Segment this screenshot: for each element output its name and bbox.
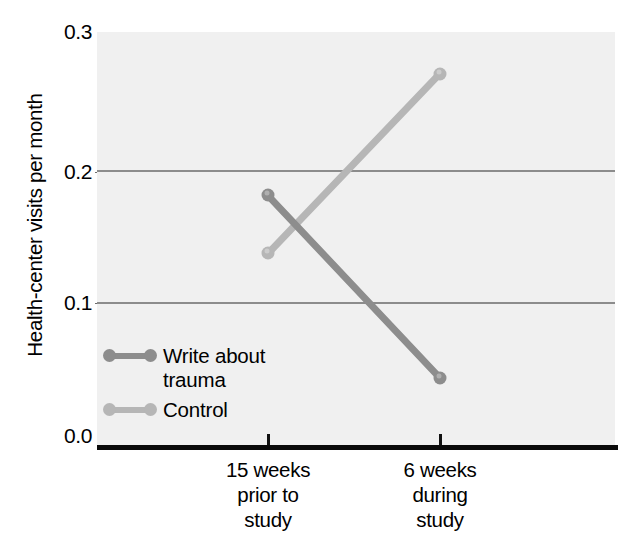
- legend-dot-right-control: [144, 403, 157, 416]
- legend: Write about trauma Control: [103, 344, 363, 428]
- legend-dot-left-write-about-trauma: [103, 349, 116, 362]
- y-tick-label-0.1: 0.1: [40, 292, 92, 313]
- gridline-0.2: [97, 170, 615, 172]
- x-tick-label-6-weeks-during: 6 weeks during study: [345, 457, 535, 532]
- data-point-control-6-weeks-during: [434, 68, 447, 81]
- y-tick-label-0.0: 0.0: [40, 425, 92, 446]
- legend-dot-right-write-about-trauma: [144, 349, 157, 362]
- y-tick-label-0.3: 0.3: [40, 21, 92, 42]
- data-point-write-about-trauma-6-weeks-during: [434, 372, 447, 385]
- legend-label-control: Control: [163, 398, 228, 422]
- legend-label-write-about-trauma: Write about trauma: [163, 344, 265, 392]
- legend-item-write-about-trauma: Write about trauma: [103, 344, 363, 392]
- legend-swatch-control: [103, 400, 157, 420]
- gridline-0.1: [97, 302, 615, 304]
- x-tick-label-15-weeks-prior: 15 weeks prior to study: [173, 457, 363, 532]
- x-axis-baseline: [97, 445, 618, 450]
- chart-figure: Health-center visits per month 0.3 0.2 0…: [0, 0, 632, 540]
- legend-item-control: Control: [103, 398, 363, 422]
- x-tick-mark-6-weeks-during: [439, 434, 442, 445]
- series-line-control: [265, 71, 442, 256]
- data-point-write-about-trauma-15-weeks-prior: [262, 189, 275, 202]
- legend-dot-left-control: [103, 403, 116, 416]
- x-tick-mark-15-weeks-prior: [267, 434, 270, 445]
- data-point-control-15-weeks-prior: [262, 247, 275, 260]
- y-tick-label-0.2: 0.2: [40, 161, 92, 182]
- y-axis-tick-labels: 0.3 0.2 0.1 0.0: [30, 0, 92, 540]
- legend-swatch-write-about-trauma: [103, 346, 157, 366]
